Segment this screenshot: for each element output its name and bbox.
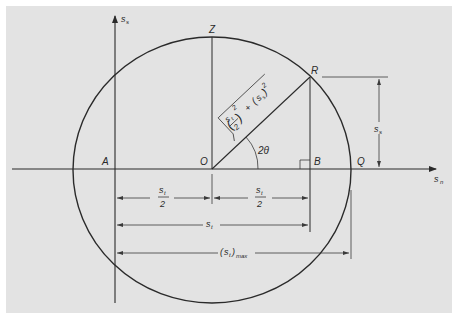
svg-text:+: + <box>243 102 254 113</box>
point-q-label: Q <box>357 156 365 167</box>
right-angle-mark <box>300 160 310 169</box>
svg-text:2: 2 <box>159 199 165 209</box>
svg-text:t: t <box>261 190 263 196</box>
svg-text:t: t <box>229 252 231 258</box>
sn-axis-label: s <box>434 174 439 184</box>
point-o-label: O <box>200 156 208 167</box>
point-z-label: Z <box>208 24 216 35</box>
svg-text:): ) <box>231 247 235 257</box>
svg-text:n: n <box>440 179 444 185</box>
point-b-label: B <box>314 156 321 167</box>
svg-text:t: t <box>164 190 166 196</box>
svg-text:2: 2 <box>230 103 238 112</box>
point-a-label: A <box>101 156 109 167</box>
radius-formula: s t 2 ( ) 2 + ( s s ) 2 <box>215 74 284 141</box>
point-r-label: R <box>311 65 318 76</box>
mohr-circle-diagram: 2θ s t 2 ( ) 2 + ( s s ) 2 s s A O Z R B… <box>0 0 458 319</box>
svg-text:max: max <box>236 253 248 259</box>
svg-text:s: s <box>379 129 382 135</box>
svg-text:2: 2 <box>256 199 262 209</box>
angle-label: 2θ <box>257 145 270 156</box>
svg-text:t: t <box>211 224 213 230</box>
svg-text:s: s <box>126 19 129 25</box>
angle-arc <box>246 137 258 169</box>
